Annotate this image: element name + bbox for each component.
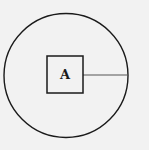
box-label: A (59, 67, 71, 82)
diagram-canvas: A (0, 0, 149, 150)
